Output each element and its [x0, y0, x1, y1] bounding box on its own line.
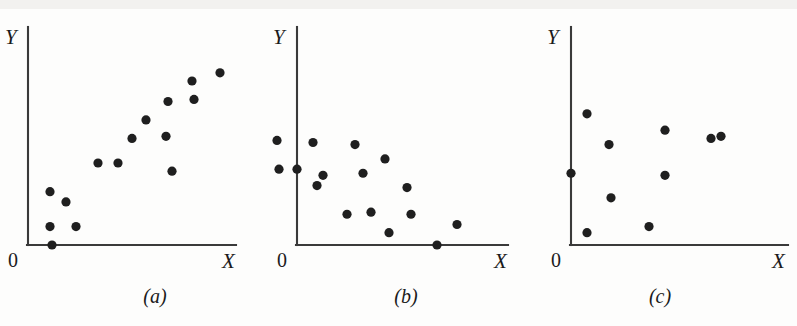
data-point	[350, 140, 359, 149]
data-point	[71, 222, 80, 231]
data-point	[141, 115, 150, 124]
panel-a-caption: (a)	[115, 286, 195, 306]
data-point	[366, 208, 375, 217]
data-point	[45, 222, 54, 231]
panel-c-plot	[520, 0, 797, 270]
data-point	[167, 167, 176, 176]
data-point	[644, 222, 653, 231]
panel-a-x-axis-label: X	[222, 251, 235, 272]
panel-c-axes	[570, 27, 788, 245]
data-point	[358, 169, 367, 178]
panel-b-x-axis-label: X	[494, 251, 507, 272]
data-point	[384, 228, 393, 237]
data-point	[582, 228, 591, 237]
panel-a-y-axis-label: Y	[5, 27, 17, 48]
panel-b-plot	[260, 0, 520, 270]
panel-a-plot	[0, 0, 260, 270]
data-point	[452, 220, 461, 229]
data-point	[308, 138, 317, 147]
panel-b-caption: (b)	[366, 286, 446, 306]
data-point	[113, 158, 122, 167]
data-point	[566, 169, 575, 178]
panel-c-caption: (c)	[620, 286, 700, 306]
panel-b-axes	[296, 27, 508, 245]
data-point	[189, 95, 198, 104]
panel-c: Y X 0 (c)	[520, 0, 797, 326]
data-point	[380, 154, 389, 163]
panel-c-origin-label: 0	[551, 250, 561, 270]
data-point	[660, 126, 669, 135]
data-point	[45, 187, 54, 196]
panel-b-y-axis-label: Y	[273, 27, 285, 48]
data-point	[606, 193, 615, 202]
data-point	[660, 171, 669, 180]
data-point	[47, 240, 56, 249]
panel-a-data-points	[45, 68, 224, 249]
panel-c-y-axis-label: Y	[547, 27, 559, 48]
data-point	[582, 109, 591, 118]
scatterplot-figure: Y X 0 (a) Y X 0 (b) Y X 0 (c)	[0, 0, 797, 326]
panel-a-origin-label: 0	[8, 250, 18, 270]
data-point	[312, 181, 321, 190]
panel-c-data-points	[566, 109, 725, 237]
data-point	[432, 240, 441, 249]
data-point	[318, 171, 327, 180]
data-point	[272, 136, 281, 145]
data-point	[716, 132, 725, 141]
data-point	[402, 183, 411, 192]
data-point	[292, 165, 301, 174]
data-point	[61, 197, 70, 206]
data-point	[161, 132, 170, 141]
data-point	[274, 165, 283, 174]
data-point	[127, 134, 136, 143]
panel-b-data-points	[272, 136, 461, 250]
panel-c-x-axis-label: X	[772, 251, 785, 272]
data-point	[215, 68, 224, 77]
panel-a: Y X 0 (a)	[0, 0, 260, 326]
data-point	[187, 76, 196, 85]
data-point	[93, 158, 102, 167]
data-point	[604, 140, 613, 149]
panel-b: Y X 0 (b)	[260, 0, 520, 326]
data-point	[342, 210, 351, 219]
data-point	[406, 210, 415, 219]
data-point	[706, 134, 715, 143]
panel-b-origin-label: 0	[277, 250, 287, 270]
data-point	[163, 97, 172, 106]
